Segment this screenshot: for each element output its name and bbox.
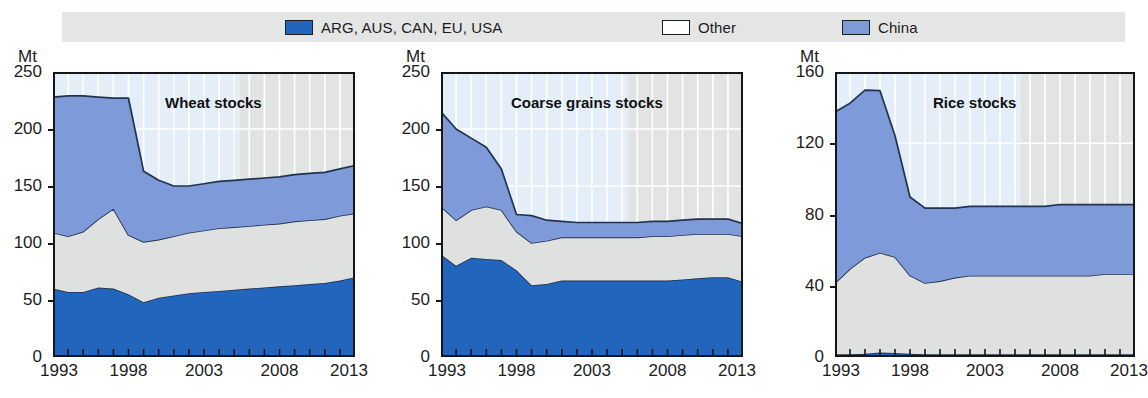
x-axis-tick-label: 2013 — [1110, 361, 1148, 381]
x-axis-labels: 19931998200320082013 — [53, 361, 355, 385]
y-axis-tick-label: 40 — [805, 276, 824, 296]
x-axis-tick-label: 1998 — [110, 361, 148, 381]
legend-label: ARG, AUS, CAN, EU, USA — [321, 19, 502, 36]
chart-title: Wheat stocks — [165, 94, 262, 111]
y-axis-labels: 04080120160 — [782, 72, 830, 357]
chart-panel-wheat-stocks: Mt 050100150200250 Wheat stocks 19931998… — [0, 45, 378, 398]
x-axis-tick-label: 2003 — [185, 361, 223, 381]
y-axis-labels: 050100150200250 — [0, 72, 48, 357]
legend: ARG, AUS, CAN, EU, USA Other China — [62, 12, 1125, 42]
x-axis-tick-label: 2008 — [1041, 361, 1079, 381]
x-axis-tick-label: 1993 — [40, 361, 78, 381]
plot-area: Coarse grains stocks — [441, 72, 743, 357]
y-axis-tick-label: 100 — [14, 233, 42, 253]
chart-title: Coarse grains stocks — [511, 94, 663, 111]
x-axis-tick-label: 2013 — [718, 361, 756, 381]
x-axis-labels: 19931998200320082013 — [441, 361, 743, 385]
x-axis-tick-label: 2003 — [966, 361, 1004, 381]
chart-title: Rice stocks — [933, 94, 1016, 111]
y-axis-tick-label: 80 — [805, 205, 824, 225]
x-axis-tick-label: 1998 — [891, 361, 929, 381]
y-axis-tick-label: 200 — [402, 119, 430, 139]
y-axis-tick-label: 50 — [411, 290, 430, 310]
y-axis-tick-label: 250 — [14, 62, 42, 82]
y-axis-tick-label: 250 — [402, 62, 430, 82]
y-axis-tick-label: 150 — [402, 176, 430, 196]
x-axis-tick-label: 1993 — [822, 361, 860, 381]
area-chart-svg — [835, 72, 1135, 357]
x-axis-tick-label: 1993 — [428, 361, 466, 381]
x-axis-tick-label: 2003 — [573, 361, 611, 381]
y-axis-tick-label: 200 — [14, 119, 42, 139]
y-axis-tick-label: 150 — [14, 176, 42, 196]
y-axis-tick-label: 100 — [402, 233, 430, 253]
legend-label: Other — [698, 19, 736, 36]
y-axis-tick-label: 120 — [796, 133, 824, 153]
y-axis-labels: 050100150200250 — [388, 72, 436, 357]
x-axis-tick-label: 2008 — [649, 361, 687, 381]
area-chart-svg — [441, 72, 743, 357]
plot-area: Wheat stocks — [53, 72, 355, 357]
area-chart-svg — [53, 72, 355, 357]
square-swatch-icon — [842, 20, 870, 35]
legend-item-arg-aus-can-eu-usa: ARG, AUS, CAN, EU, USA — [285, 19, 502, 36]
x-axis-tick-label: 2013 — [330, 361, 368, 381]
x-axis-labels: 19931998200320082013 — [835, 361, 1135, 385]
legend-item-china: China — [842, 19, 918, 36]
legend-label: China — [878, 19, 918, 36]
chart-panel-rice-stocks: Mt 04080120160 Rice stocks 1993199820032… — [756, 45, 1135, 398]
y-axis-tick-label: 160 — [796, 62, 824, 82]
plot-area: Rice stocks — [835, 72, 1135, 357]
chart-panel-coarse-grains-stocks: Mt 050100150200250 Coarse grains stocks … — [378, 45, 756, 398]
x-axis-tick-label: 2008 — [261, 361, 299, 381]
x-axis-tick-label: 1998 — [498, 361, 536, 381]
square-swatch-icon — [662, 20, 690, 35]
square-swatch-icon — [285, 20, 313, 35]
y-axis-tick-label: 50 — [23, 290, 42, 310]
legend-item-other: Other — [662, 19, 736, 36]
